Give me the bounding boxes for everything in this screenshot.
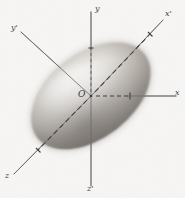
label-y-prime-axis: y' <box>11 24 18 32</box>
ellipsoid-figure <box>0 0 185 198</box>
paper-grain <box>0 0 185 198</box>
label-x-prime-axis: x' <box>165 10 172 18</box>
label-origin: O <box>78 90 85 99</box>
label-y-axis: y <box>95 5 100 13</box>
figure-container: y x' y' x O z z' <box>0 0 185 198</box>
label-z-axis: z <box>5 172 9 180</box>
label-x-axis: x <box>175 89 180 97</box>
label-z-prime-axis: z' <box>87 185 93 193</box>
